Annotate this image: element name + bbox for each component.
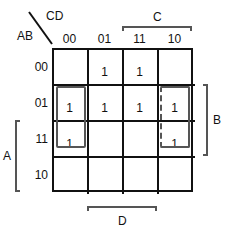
grid-vline-3 <box>157 50 159 194</box>
row-variables-label: AB <box>17 30 33 42</box>
group-loop-right <box>160 86 190 148</box>
bracket-d-label: D <box>118 215 127 227</box>
bracket-d <box>87 206 157 211</box>
row-header-3: 10 <box>26 169 48 181</box>
bracket-b <box>203 84 208 156</box>
group-loop-left <box>56 86 86 148</box>
grid-hline-3 <box>54 156 195 158</box>
column-variables-label: CD <box>46 10 63 22</box>
bracket-b-label: B <box>213 114 221 126</box>
cell-r0-c1: 1 <box>87 66 122 78</box>
cell-r0-c2: 1 <box>122 66 157 78</box>
cell-r1-c2: 1 <box>122 102 157 114</box>
row-header-0: 00 <box>26 61 48 73</box>
cell-r1-c1: 1 <box>87 102 122 114</box>
column-header-1: 01 <box>87 33 122 45</box>
bracket-c-label: C <box>153 11 162 23</box>
karnaugh-map-diagram: CD AB C 00 01 11 10 00 01 11 10 A 1 1 1 … <box>0 0 233 234</box>
column-header-0: 00 <box>52 33 87 45</box>
row-header-2: 11 <box>26 133 48 145</box>
row-header-1: 01 <box>26 97 48 109</box>
bracket-a <box>15 120 20 192</box>
bracket-a-label: A <box>3 150 11 162</box>
column-header-3: 10 <box>157 33 192 45</box>
bracket-c <box>122 26 192 31</box>
column-header-2: 11 <box>122 33 157 45</box>
